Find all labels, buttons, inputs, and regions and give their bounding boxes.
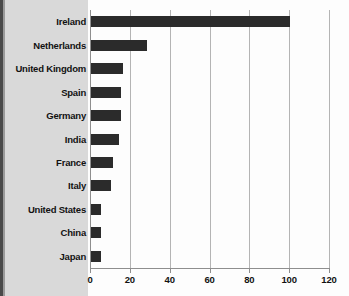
category-label: Germany	[2, 110, 86, 121]
x-tick-label: 20	[110, 274, 150, 285]
x-tick-label: 40	[150, 274, 190, 285]
x-tick-label: 60	[190, 274, 230, 285]
category-label: United Kingdom	[2, 63, 86, 74]
category-label: Japan	[2, 251, 86, 262]
category-label: China	[2, 227, 86, 238]
x-tick-label: 120	[309, 274, 349, 285]
category-label: Italy	[2, 180, 86, 191]
category-label: France	[2, 157, 86, 168]
category-label: United States	[2, 204, 86, 215]
bar-chart-screenshot: IrelandNetherlandsUnited KingdomSpainGer…	[0, 0, 349, 296]
x-tick-label: 80	[229, 274, 269, 285]
category-label: India	[2, 134, 86, 145]
category-label: Ireland	[2, 16, 86, 27]
category-label: Spain	[2, 87, 86, 98]
x-tick-label: 100	[269, 274, 309, 285]
category-label: Netherlands	[2, 40, 86, 51]
category-axis-labels: IrelandNetherlandsUnited KingdomSpainGer…	[0, 0, 86, 296]
x-axis-tick-labels: 020406080100120	[90, 0, 330, 296]
x-tick-label: 0	[70, 274, 110, 285]
